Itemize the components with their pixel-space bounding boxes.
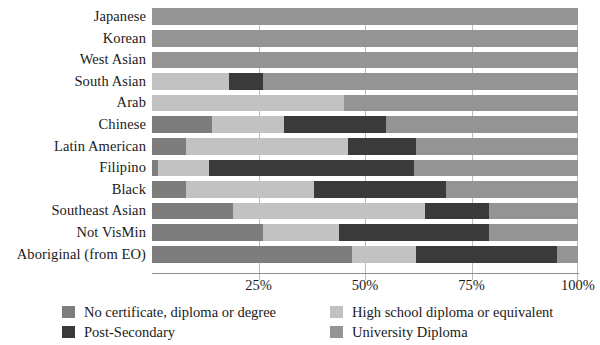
legend-item-high-school: High school diploma or equivalent	[330, 303, 553, 322]
bar-segment	[152, 73, 229, 90]
legend-swatch-post-secondary	[62, 326, 75, 338]
legend-label-no-certificate: No certificate, diploma or degree	[84, 303, 276, 322]
bar-segment	[263, 224, 340, 241]
stacked-bar	[152, 181, 578, 198]
bar-segment	[263, 73, 578, 90]
bar-segment	[339, 224, 488, 241]
category-label: Southeast Asian	[0, 200, 146, 222]
bar-segment	[348, 138, 416, 155]
bar-segment	[425, 203, 489, 220]
bar-segment	[152, 52, 578, 69]
bar-rows: JapaneseKoreanWest AsianSouth AsianArabC…	[0, 6, 600, 265]
category-label: Filipino	[0, 157, 146, 179]
category-label: Korean	[0, 28, 146, 50]
bar-row: Japanese	[0, 6, 600, 28]
legend-swatch-university-diploma	[330, 326, 343, 338]
bar-row: Chinese	[0, 114, 600, 136]
stacked-bar	[152, 246, 578, 263]
chart-legend: No certificate, diploma or degree Post-S…	[0, 303, 600, 345]
bar-segment	[152, 30, 578, 47]
bar-segment	[209, 160, 413, 177]
stacked-bar	[152, 30, 578, 47]
bar-segment	[152, 224, 263, 241]
bar-segment	[557, 246, 578, 263]
stacked-bar	[152, 224, 578, 241]
x-axis-line	[152, 273, 579, 274]
x-tick-label: 75%	[458, 277, 485, 294]
bar-segment	[416, 138, 578, 155]
category-label: South Asian	[0, 71, 146, 93]
legend-swatch-high-school	[330, 306, 343, 318]
bar-segment	[416, 246, 557, 263]
bar-segment	[284, 116, 386, 133]
bar-segment	[158, 160, 209, 177]
plot-area: JapaneseKoreanWest AsianSouth AsianArabC…	[0, 6, 600, 274]
bar-row: Not VisMin	[0, 222, 600, 244]
category-label: Chinese	[0, 114, 146, 136]
bar-row: Southeast Asian	[0, 200, 600, 222]
category-label: Not VisMin	[0, 222, 146, 244]
bar-segment	[386, 116, 578, 133]
bar-segment	[446, 181, 578, 198]
bar-segment	[152, 95, 344, 112]
legend-label-university-diploma: University Diploma	[352, 323, 468, 342]
bar-row: Black	[0, 179, 600, 201]
category-label: Latin American	[0, 136, 146, 158]
x-tick-label: 100%	[561, 277, 595, 294]
bar-segment	[152, 246, 352, 263]
bar-segment	[212, 116, 284, 133]
bar-segment	[489, 203, 578, 220]
bar-segment	[152, 138, 186, 155]
legend-label-high-school: High school diploma or equivalent	[352, 303, 553, 322]
bar-segment	[344, 95, 578, 112]
category-label: Aboriginal (from EO)	[0, 244, 146, 266]
bar-segment	[233, 203, 425, 220]
bar-segment	[414, 160, 578, 177]
bar-segment	[152, 203, 233, 220]
stacked-bar	[152, 8, 578, 25]
stacked-bar	[152, 160, 578, 177]
category-label: Black	[0, 179, 146, 201]
bar-segment	[314, 181, 446, 198]
stacked-bar	[152, 95, 578, 112]
bar-row: Arab	[0, 92, 600, 114]
stacked-bar	[152, 52, 578, 69]
bar-row: Aboriginal (from EO)	[0, 244, 600, 266]
category-label: West Asian	[0, 49, 146, 71]
legend-item-no-certificate: No certificate, diploma or degree	[62, 303, 276, 322]
bar-segment	[229, 73, 263, 90]
x-axis-tick-labels: 25%50%75%100%	[0, 277, 600, 297]
x-tick-label: 25%	[245, 277, 272, 294]
legend-label-post-secondary: Post-Secondary	[84, 323, 175, 342]
bar-segment	[152, 116, 212, 133]
bar-segment	[352, 246, 416, 263]
bar-segment	[152, 8, 578, 25]
bar-segment	[186, 181, 314, 198]
bar-row: Latin American	[0, 136, 600, 158]
bar-segment	[489, 224, 578, 241]
stacked-bar	[152, 203, 578, 220]
bar-row: West Asian	[0, 49, 600, 71]
stacked-bar	[152, 116, 578, 133]
category-label: Arab	[0, 92, 146, 114]
bar-row: Korean	[0, 28, 600, 50]
legend-item-university-diploma: University Diploma	[330, 323, 468, 342]
bar-segment	[186, 138, 348, 155]
stacked-bar-chart: JapaneseKoreanWest AsianSouth AsianArabC…	[0, 0, 600, 345]
legend-item-post-secondary: Post-Secondary	[62, 323, 175, 342]
stacked-bar	[152, 138, 578, 155]
bar-segment	[152, 181, 186, 198]
bar-row: Filipino	[0, 157, 600, 179]
stacked-bar	[152, 73, 578, 90]
bar-row: South Asian	[0, 71, 600, 93]
category-label: Japanese	[0, 6, 146, 28]
legend-swatch-no-certificate	[62, 306, 75, 318]
x-tick-label: 50%	[352, 277, 379, 294]
